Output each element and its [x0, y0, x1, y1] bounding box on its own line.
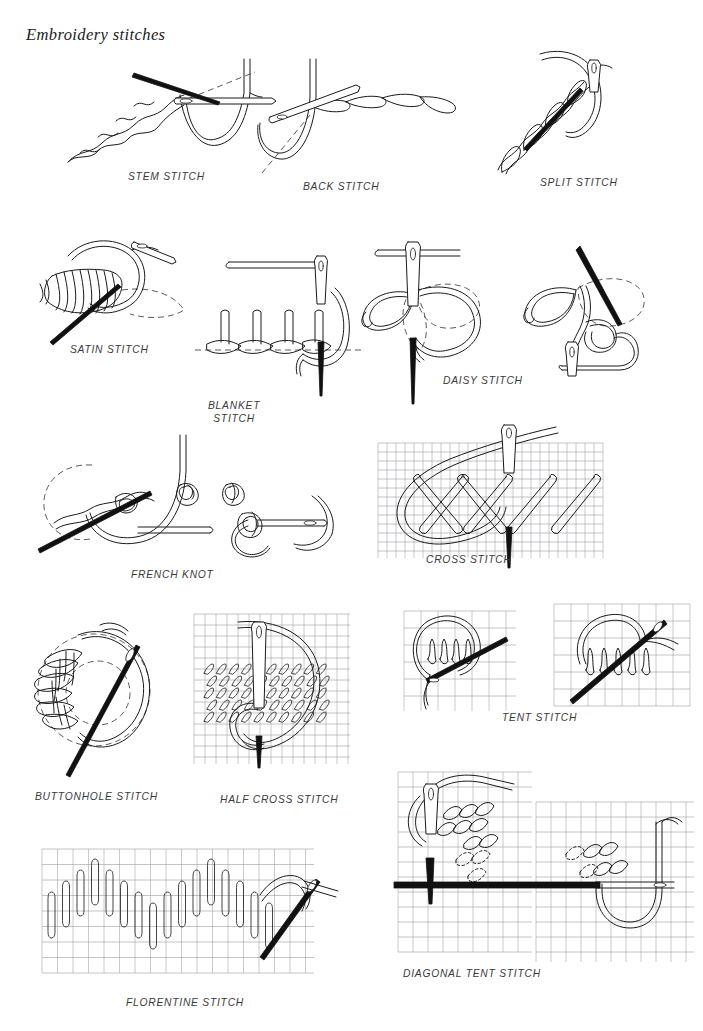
- figure-buttonhole-stitch: [22, 605, 192, 780]
- label-satin-stitch: SATIN STITCH: [70, 343, 149, 356]
- page-title: Embroidery stitches: [26, 25, 165, 45]
- needle-split: [587, 60, 600, 92]
- label-cross-stitch: CROSS STITCH: [426, 553, 512, 566]
- buttonhole-loop-thread: [78, 623, 150, 747]
- florentine-stitch-drawing: [38, 845, 338, 980]
- diagonal-tent-horizontal-thread-right: [596, 882, 674, 888]
- label-stem-stitch: STEM STITCH: [128, 170, 205, 183]
- figure-tent-stitch: [400, 607, 520, 717]
- label-buttonhole-stitch: BUTTONHOLE STITCH: [35, 790, 158, 803]
- figure-split-stitch: [480, 40, 690, 185]
- cross-stitch-x-stitches: [413, 474, 600, 533]
- tent-stitch-step2-drawing: [552, 600, 692, 710]
- needle-tip-daisy2: [576, 246, 622, 326]
- needle-tip-tent-right: [570, 620, 667, 704]
- split-stitch-drawing: [480, 40, 690, 185]
- needle-tip-diagonal-tent-left: [426, 858, 434, 904]
- cross-stitch-loop-thread: [397, 427, 558, 544]
- figure-cross-stitch: [370, 425, 615, 570]
- needle-diagonal-tent-left: [423, 784, 438, 834]
- figure-blanket-stitch: [185, 238, 365, 398]
- blanket-upright-bars: [221, 310, 323, 344]
- figure-florentine-stitch: [38, 845, 338, 980]
- tent-stitch-drawing: [400, 607, 520, 717]
- needle-cross: [501, 425, 516, 473]
- figure-french-knot: [20, 435, 220, 565]
- needle-satin: [131, 242, 176, 264]
- buttonhole-stitch-drawing: [22, 605, 192, 780]
- daisy-loop-thread: [375, 250, 480, 362]
- blanket-working-thread: [226, 262, 349, 376]
- needle-half-cross: [251, 622, 266, 708]
- needle-daisy2: [565, 342, 578, 376]
- french-knot-sample-1: [177, 483, 199, 505]
- french-knot-drawing: [20, 435, 220, 565]
- daisy-stitch-step2-drawing: [508, 232, 688, 382]
- needle-shaft-diagonal-tent-right: [394, 882, 600, 888]
- needle-tip-blanket: [318, 342, 324, 396]
- figure-back-stitch: [252, 45, 482, 180]
- needle-back: [269, 85, 360, 123]
- back-stitch-drawing: [252, 45, 482, 180]
- figure-diagonal-tent-stitch: [396, 770, 534, 955]
- cross-stitch-canvas-grid: [378, 443, 603, 558]
- figure-french-knot-step2: [212, 490, 342, 570]
- needle-tip-tent-left: [426, 637, 508, 683]
- french-knot-step2-drawing: [212, 490, 342, 570]
- diagonal-tent-canvas-grid-left: [398, 772, 532, 952]
- french-knot2-knot: [238, 512, 262, 538]
- figure-half-cross-stitch: [192, 608, 350, 770]
- figure-tent-stitch-step2: [552, 600, 692, 710]
- needle-tip-split: [524, 88, 583, 151]
- label-diagonal-tent-stitch: DIAGONAL TENT STITCH: [403, 967, 541, 980]
- label-french-knot: FRENCH KNOT: [131, 568, 214, 581]
- label-blanket-stitch: BLANKET STITCH: [208, 399, 260, 425]
- florentine-stitch-bars: [48, 859, 273, 949]
- daisy2-petal-left: [524, 288, 576, 327]
- daisy-petal-left: [362, 292, 414, 331]
- figure-diagonal-tent-stitch-step2: [534, 800, 696, 965]
- daisy2-guide-petal: [578, 279, 644, 327]
- diagonal-tent-stitch-drawing: [396, 770, 534, 955]
- buttonhole-fan-stitches: [35, 650, 82, 729]
- diagonal-tent-stitch-marks-left: [438, 803, 498, 850]
- french-knot-horizontal-thread: [138, 527, 213, 533]
- label-back-stitch: BACK STITCH: [303, 180, 379, 193]
- diagonal-tent-stitch-marks-right: [584, 843, 628, 876]
- diagonal-tent-stitch-step2-drawing: [534, 800, 696, 965]
- needle-blanket: [314, 256, 327, 304]
- diagonal-tent-loop-thread-right: [596, 818, 682, 929]
- needle-tip-daisy: [410, 338, 416, 404]
- stem-twist-thread: [68, 95, 184, 162]
- tent-canvas-grid-right: [554, 604, 690, 706]
- needle-tip-half-cross: [256, 736, 262, 768]
- needle-daisy: [405, 242, 420, 306]
- french-knot2-horizontal: [258, 520, 327, 526]
- blanket-loop-row: [207, 340, 331, 354]
- label-florentine-stitch: FLORENTINE STITCH: [126, 996, 244, 1009]
- half-cross-loop-thread: [230, 621, 320, 749]
- half-cross-stitch-rows: [204, 664, 329, 722]
- label-half-cross-stitch: HALF CROSS STITCH: [220, 793, 338, 806]
- label-tent-stitch: TENT STITCH: [502, 711, 577, 724]
- label-split-stitch: SPLIT STITCH: [540, 176, 618, 189]
- blanket-stitch-drawing: [185, 238, 365, 398]
- florentine-canvas-grid: [42, 849, 314, 973]
- needle-eye-tent-left: [429, 678, 439, 682]
- illustration-page: Embroidery stitches STE: [0, 0, 703, 1031]
- cross-stitch-drawing: [370, 425, 615, 570]
- half-cross-stitch-drawing: [192, 608, 350, 770]
- needle-tip-satin: [50, 284, 121, 345]
- figure-daisy-stitch-step2: [508, 232, 688, 382]
